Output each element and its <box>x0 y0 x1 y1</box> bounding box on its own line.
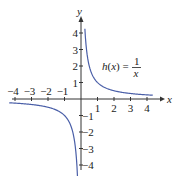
x-axis-arrow-icon <box>160 97 165 102</box>
y-tick-label: −3 <box>82 143 94 155</box>
chart: −4−3−2−11234 −4−3−2−11234 x y h(x) = 1 x <box>0 0 176 176</box>
x-tick-label: −3 <box>24 85 36 97</box>
y-tick-label: −1 <box>82 110 94 122</box>
x-tick-label: −2 <box>40 85 52 97</box>
y-tick-label: 2 <box>73 60 79 72</box>
x-tick-label: −4 <box>7 85 19 97</box>
y-tick-label: 3 <box>73 44 79 56</box>
function-numerator: 1 <box>134 55 140 67</box>
y-tick-label: −2 <box>82 126 94 138</box>
curve-negative-branch <box>9 103 77 176</box>
x-tick-label: 2 <box>111 102 117 114</box>
x-tick-label: −1 <box>57 85 69 97</box>
y-tick-label: 1 <box>73 77 79 89</box>
function-lhs: h(x) = <box>102 60 129 73</box>
x-axis-label: x <box>166 93 172 105</box>
y-tick-label: 4 <box>73 27 79 39</box>
x-tick-label: 1 <box>95 102 101 114</box>
x-tick-label: 3 <box>128 102 134 114</box>
x-tick-label: 4 <box>144 102 150 114</box>
function-annotation: h(x) = 1 x <box>102 55 141 79</box>
y-axis-label: y <box>76 5 82 17</box>
y-tick-label: −4 <box>82 159 94 171</box>
function-denominator: x <box>133 67 139 79</box>
